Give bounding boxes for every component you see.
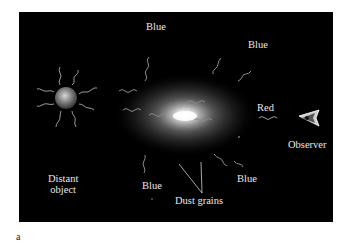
label-distant-object-line2: object: [48, 184, 78, 195]
panel-label: a: [16, 231, 20, 242]
label-blue-top-left: Blue: [146, 21, 166, 32]
observer-eye-icon: [299, 110, 319, 126]
diagram-panel: Blue Blue Red Observer Distant object Bl…: [19, 12, 333, 222]
label-red: Red: [257, 102, 274, 113]
label-blue-bottom-right: Blue: [237, 173, 257, 184]
label-distant-object: Distant object: [48, 173, 78, 195]
distant-object-icon: [37, 67, 97, 127]
label-blue-top-right: Blue: [248, 39, 268, 50]
label-blue-bottom-left: Blue: [142, 180, 162, 191]
label-distant-object-line1: Distant: [48, 173, 78, 184]
label-observer: Observer: [288, 139, 326, 150]
label-dust-grains: Dust grains: [175, 195, 223, 206]
